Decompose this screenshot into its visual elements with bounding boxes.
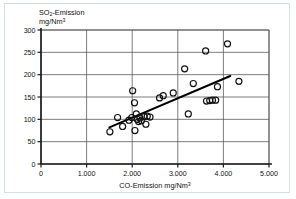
data-point-marker [107, 129, 113, 135]
data-point-marker [182, 66, 188, 72]
y-tick-label: 300 [24, 27, 36, 35]
data-point-marker [190, 81, 196, 87]
y-tick-label: 0 [32, 161, 36, 169]
data-point-marker [224, 41, 230, 47]
x-tick-label: 2.000 [123, 170, 141, 178]
x-tick-label: 5.000 [260, 170, 278, 178]
y-tick-label: 200 [24, 71, 36, 79]
x-tick-label: 3.000 [169, 170, 187, 178]
data-point-marker [214, 84, 220, 90]
data-point-marker [185, 111, 191, 117]
x-tick-label: 4.000 [215, 170, 233, 178]
data-point-marker [132, 127, 138, 133]
figure-frame: 05010015020025030001.0002.0003.0004.0005… [4, 3, 290, 193]
data-point-marker [143, 121, 149, 127]
y-tick-label: 50 [28, 138, 36, 146]
data-point-marker [130, 88, 136, 94]
data-point-marker [170, 90, 176, 96]
y-tick-label: 250 [24, 49, 36, 57]
x-axis-title: CO-Emission mg/Nm3 [119, 181, 191, 190]
data-point-marker [236, 78, 242, 84]
y-tick-label: 100 [24, 116, 36, 124]
x-tick-label: 0 [39, 170, 43, 178]
x-tick-label: 1.000 [78, 170, 96, 178]
data-point-marker [120, 123, 126, 129]
y-tick-label: 150 [24, 94, 36, 102]
y-axis-unit: mg/Nm3 [39, 17, 66, 26]
y-axis-title: SO2-Emission [39, 8, 84, 17]
data-point-marker [203, 48, 209, 54]
scatter-plot: 05010015020025030001.0002.0003.0004.0005… [5, 4, 289, 192]
